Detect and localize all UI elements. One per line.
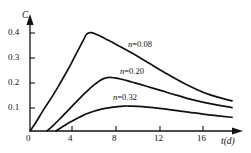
x-axis-title: t(d)	[221, 136, 235, 146]
x-tick-label-12: 12	[154, 133, 163, 143]
x-axis	[30, 127, 243, 134]
x-tick-label-8: 8	[112, 133, 117, 143]
y-axis	[26, 14, 33, 131]
series-label-value: 0.20	[129, 66, 144, 76]
chart-figure: C t(d) 0.4 0.3 0.2 0.1 0 4 8 12 16 n=0.0…	[0, 0, 251, 153]
series-label-value: 0.08	[137, 39, 152, 49]
y-tick-label-0.3: 0.3	[8, 52, 19, 62]
series-label-n-020: n=0.20	[120, 66, 144, 76]
y-axis-title: C	[22, 10, 28, 20]
y-tick-label-0.1: 0.1	[8, 102, 19, 112]
curve-n-020	[47, 77, 232, 131]
x-tick-label-16: 16	[197, 133, 206, 143]
curve-n-032	[56, 106, 232, 131]
y-tick-label-0.2: 0.2	[8, 77, 19, 87]
y-tick-label-0.4: 0.4	[8, 27, 19, 37]
series-label-n-008: n=0.08	[128, 39, 152, 49]
series-label-value: 0.32	[122, 92, 137, 102]
chart-plot-area	[0, 0, 251, 153]
x-tick-label-0: 0	[26, 133, 31, 143]
x-axis-ticks	[72, 126, 203, 131]
y-axis-ticks	[30, 33, 35, 108]
series-label-n-032: n=0.32	[113, 92, 137, 102]
x-tick-label-4: 4	[68, 133, 73, 143]
